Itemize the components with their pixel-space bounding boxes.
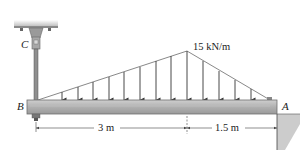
dimension-left-span: 3 m: [97, 123, 115, 134]
label-point-b: B: [17, 101, 24, 112]
label-point-c: C: [21, 39, 28, 50]
label-point-a: A: [282, 101, 289, 112]
wall-support: [277, 114, 300, 150]
load-intensity-label: 15 kN/m: [193, 42, 230, 53]
beam-diagram: C B A 15 kN/m 3 m 1.5 m: [0, 0, 304, 157]
dimension-lines: [36, 116, 277, 134]
beam: [27, 100, 277, 114]
dimension-right-span: 1.5 m: [214, 123, 240, 134]
tie-rod: [34, 49, 38, 101]
distributed-load: [38, 51, 272, 100]
rod-nut: [32, 114, 40, 121]
